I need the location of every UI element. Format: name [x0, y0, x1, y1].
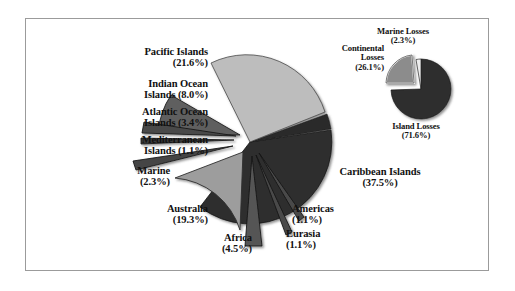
- label-pacific-islands: Pacific Islands (21.6%): [104, 46, 208, 69]
- label-australia: Australia (19.3%): [120, 203, 208, 226]
- label-americas: Americas (1.1%): [292, 203, 374, 226]
- label-caribbean-islands-pct: (37.5%): [316, 177, 444, 188]
- label-mediterranean-islands-pct: Islands (1.1%): [70, 145, 208, 156]
- label-island-losses-pct: (71.6%): [370, 131, 462, 140]
- label-continental-losses: Continental Losses (26.1%): [320, 44, 384, 72]
- label-marine-name: Marine: [74, 165, 170, 176]
- label-atlantic-ocean-islands-name: Atlantic Ocean: [86, 106, 208, 117]
- label-eurasia-name: Eurasia: [286, 228, 356, 239]
- label-africa: Africa (4.5%): [184, 232, 252, 255]
- label-caribbean-islands: Caribbean Islands (37.5%): [316, 166, 444, 189]
- label-marine-pct: (2.3%): [74, 176, 170, 187]
- label-marine: Marine (2.3%): [74, 165, 170, 188]
- pie-slice-marine-losses[interactable]: [416, 59, 421, 89]
- label-pacific-islands-name: Pacific Islands: [104, 46, 208, 57]
- label-mediterranean-islands-name: Mediterranean: [70, 134, 208, 145]
- label-continental-losses-pct: (26.1%): [320, 63, 384, 72]
- label-atlantic-ocean-islands: Atlantic Ocean Islands (3.4%): [86, 106, 208, 129]
- inset-pie-chart: [386, 55, 451, 119]
- label-island-losses: Island Losses (71.6%): [370, 122, 462, 141]
- figure-page: Pacific Islands (21.6%) Indian Ocean Isl…: [0, 0, 515, 291]
- label-pacific-islands-pct: (21.6%): [104, 57, 208, 68]
- label-australia-pct: (19.3%): [120, 214, 208, 225]
- label-indian-ocean-islands-name: Indian Ocean: [88, 78, 208, 89]
- label-atlantic-ocean-islands-pct: Islands (3.4%): [86, 117, 208, 128]
- label-eurasia-pct: (1.1%): [286, 239, 356, 250]
- label-indian-ocean-islands-pct: Islands (8.0%): [88, 89, 208, 100]
- label-eurasia: Eurasia (1.1%): [286, 228, 356, 251]
- label-caribbean-islands-name: Caribbean Islands: [316, 166, 444, 177]
- label-indian-ocean-islands: Indian Ocean Islands (8.0%): [88, 78, 208, 101]
- label-americas-name: Americas: [292, 203, 374, 214]
- label-australia-name: Australia: [120, 203, 208, 214]
- label-americas-pct: (1.1%): [292, 214, 374, 225]
- label-africa-name: Africa: [184, 232, 252, 243]
- label-mediterranean-islands: Mediterranean Islands (1.1%): [70, 134, 208, 157]
- label-africa-pct: (4.5%): [184, 243, 252, 254]
